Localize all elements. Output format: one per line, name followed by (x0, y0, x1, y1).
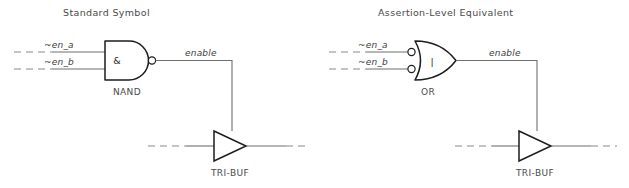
or-gate-body (415, 41, 456, 80)
tribuf-triangle-assertion (519, 131, 551, 161)
panel-title-assertion: Assertion-Level Equivalent (378, 7, 513, 18)
enable-wire-assertion (456, 61, 537, 132)
input-b-label-standard: ~en_b (44, 57, 74, 67)
diagram-canvas: Standard Symbol ~en_a ~en_b & NAND enabl… (0, 0, 629, 188)
or-input-b-bubble-icon (408, 65, 415, 72)
nand-gate-body (105, 41, 149, 80)
enable-wire-standard (156, 61, 232, 132)
panel-assertion-level: Assertion-Level Equivalent ~en_a ~en_b |… (329, 7, 617, 178)
nand-gate-label: NAND (113, 87, 141, 97)
input-a-label-standard: ~en_a (44, 40, 74, 50)
enable-label-standard: enable (185, 48, 217, 58)
tribuf-triangle-standard (214, 131, 246, 161)
panel-standard-symbol: Standard Symbol ~en_a ~en_b & NAND enabl… (14, 7, 310, 178)
tribuf-label-assertion: TRI-BUF (515, 168, 554, 178)
or-gate-label: OR (421, 87, 435, 97)
or-input-a-bubble-icon (408, 48, 415, 55)
panel-title-standard: Standard Symbol (63, 7, 150, 18)
nand-gate-operator: & (113, 55, 121, 66)
nand-output-bubble-icon (148, 57, 155, 64)
input-a-label-assertion: ~en_a (358, 40, 388, 50)
input-b-label-assertion: ~en_b (358, 57, 388, 67)
tribuf-label-standard: TRI-BUF (210, 168, 249, 178)
or-gate-operator: | (430, 56, 433, 67)
enable-label-assertion: enable (489, 48, 521, 58)
logic-diagram-figure: Standard Symbol ~en_a ~en_b & NAND enabl… (0, 0, 629, 188)
